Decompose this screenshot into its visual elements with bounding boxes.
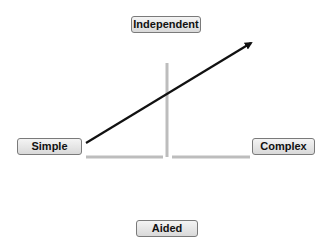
label-simple: Simple (17, 138, 82, 155)
diagram-canvas (0, 0, 330, 249)
label-complex: Complex (252, 138, 315, 155)
label-aided: Aided (136, 220, 198, 237)
label-independent: Independent (131, 16, 201, 33)
